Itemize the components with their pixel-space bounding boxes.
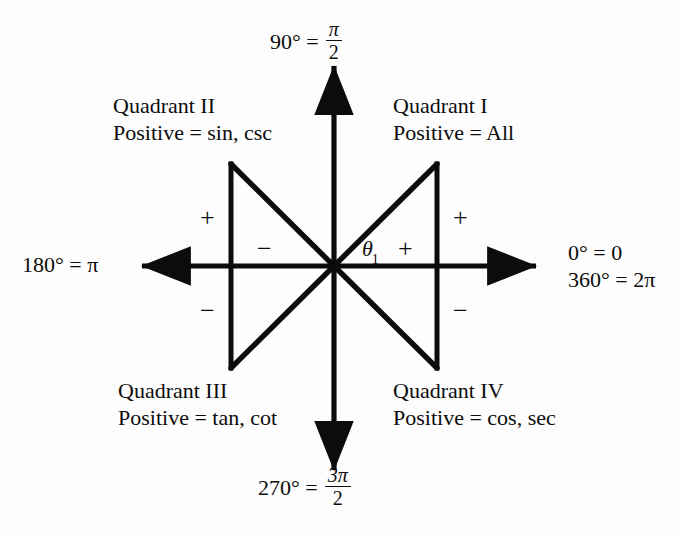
quadrant-1-positive: Positive = All [393, 120, 514, 147]
fraction-3pi-over-2: 3π 2 [325, 465, 351, 509]
fraction-numerator: 3π [325, 465, 351, 485]
quadrant-4-positive: Positive = cos, sec [393, 405, 556, 432]
q2-hypotenuse [231, 164, 334, 266]
fraction-pi-over-2: π 2 [326, 19, 342, 63]
label-360-degrees-text: 360° = 2π [568, 267, 655, 294]
quadrant-1-label: Quadrant I Positive = All [393, 93, 514, 147]
axis-label-180-degrees: 180° = π [22, 252, 98, 279]
quadrant-3-positive: Positive = tan, cot [118, 405, 277, 432]
quadrant-3-label: Quadrant III Positive = tan, cot [118, 378, 277, 432]
sign-q2-inner-minus: − [257, 234, 272, 264]
label-0-degrees-text: 0° = 0 [568, 240, 655, 267]
sign-q3-outer-minus: − [200, 296, 215, 326]
q4-hypotenuse [334, 266, 437, 368]
theta-1-angle-label: θ1 [362, 236, 380, 265]
fraction-denominator: 2 [325, 488, 351, 509]
fraction-numerator: π [326, 19, 342, 39]
theta-subscript: 1 [372, 252, 379, 267]
axis-label-90-degrees: 90° = π 2 [270, 20, 344, 64]
q3-hypotenuse [231, 266, 334, 368]
q1-hypotenuse [334, 164, 437, 266]
sign-q1-outer-plus: + [453, 203, 468, 233]
quadrant-2-title: Quadrant II [113, 93, 272, 120]
axis-label-0-and-360-degrees: 0° = 0 360° = 2π [568, 240, 655, 294]
trig-quadrant-diagram: 90° = π 2 270° = 3π 2 180° = π 0° = 0 36… [0, 0, 683, 538]
quadrant-2-label: Quadrant II Positive = sin, csc [113, 93, 272, 147]
fraction-denominator: 2 [326, 42, 342, 63]
quadrant-4-label: Quadrant IV Positive = cos, sec [393, 378, 556, 432]
quadrant-2-positive: Positive = sin, csc [113, 120, 272, 147]
quadrant-1-title: Quadrant I [393, 93, 514, 120]
axis-label-270-degrees: 270° = 3π 2 [258, 466, 353, 510]
quadrant-3-title: Quadrant III [118, 378, 277, 405]
sign-q1-inner-plus: + [398, 234, 413, 264]
label-90-degrees-text: 90° = [270, 29, 319, 56]
sign-q2-outer-plus: + [200, 203, 215, 233]
label-270-degrees-text: 270° = [258, 475, 318, 502]
sign-q4-outer-minus: − [453, 296, 468, 326]
quadrant-4-title: Quadrant IV [393, 378, 556, 405]
